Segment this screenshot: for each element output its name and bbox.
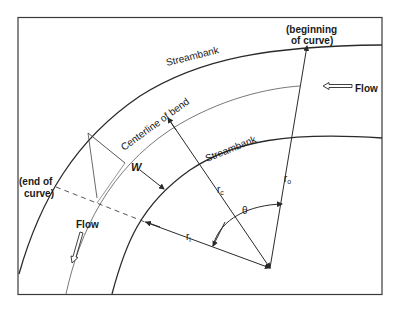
flow-arrow-left-icon [71, 232, 83, 263]
flow-label-right: Flow [355, 83, 378, 94]
beginning-of-curve-label-line2: of curve) [291, 35, 333, 46]
width-dimension-arrow [140, 170, 164, 189]
r-i-radius-line [145, 222, 270, 268]
cross-section-line-outer [88, 133, 125, 163]
end-of-curve-dashed-line [56, 187, 145, 222]
stream-bend-diagram: Streambank Streambank Centerline of bend… [0, 0, 399, 309]
r-i-arrow-at-bank [146, 222, 160, 227]
cross-section-line-mid [97, 163, 125, 203]
r-c-subscript: c [220, 189, 224, 196]
beginning-of-curve-label-line1: (beginning [286, 24, 337, 35]
r-i-subscript: i [189, 236, 191, 243]
r-c-label: rc [217, 184, 224, 196]
r-o-label: ro [284, 173, 291, 185]
r-o-subscript: o [287, 178, 291, 185]
centerline-label: Centerline of bend [119, 96, 192, 153]
outer-streambank-curve [19, 45, 382, 274]
cross-section-line [88, 133, 97, 198]
inner-streambank-label: Streambank [204, 133, 259, 164]
theta-label: θ [242, 205, 248, 216]
r-o-radius-line [270, 46, 307, 268]
centerline-curve [66, 86, 300, 294]
width-label: W [131, 161, 143, 173]
end-of-curve-label-line1: (end of [19, 176, 53, 187]
end-of-curve-label-line2: curve) [24, 188, 54, 199]
flow-label-left: Flow [76, 219, 99, 230]
r-i-label: ri [186, 231, 191, 243]
flow-arrow-right-icon [323, 83, 352, 90]
theta-angle-arc-start [213, 222, 225, 246]
